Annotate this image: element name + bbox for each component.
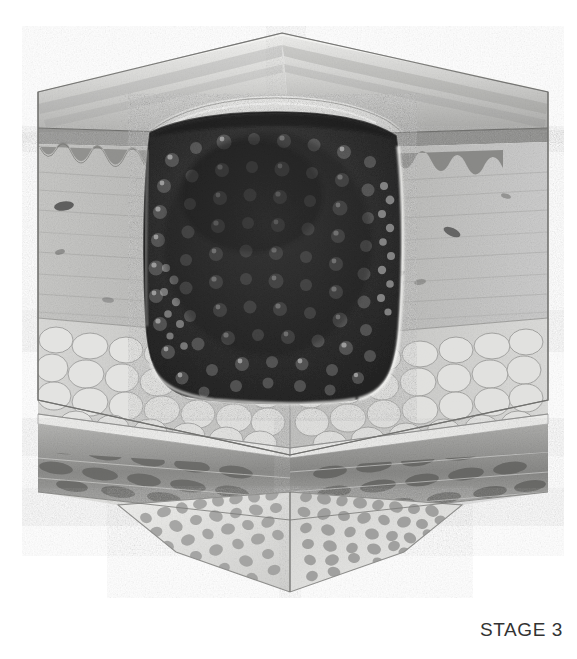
stage-caption: STAGE 3 bbox=[480, 619, 563, 641]
wound-crater bbox=[144, 112, 403, 404]
anatomical-figure: STAGE 3 bbox=[0, 0, 577, 659]
pressure-ulcer-illustration bbox=[0, 0, 577, 659]
